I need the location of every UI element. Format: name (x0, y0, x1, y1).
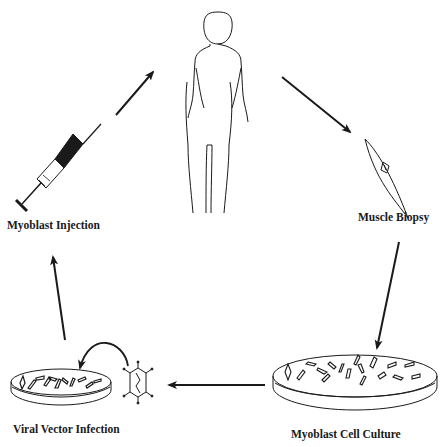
label-muscle-biopsy: Muscle Biopsy (358, 211, 429, 223)
arrow-virus-to-dish (80, 343, 128, 368)
petri-dish-virus-icon (11, 369, 111, 405)
muscle-tissue-icon (365, 139, 408, 218)
petri-dish-icon (273, 355, 437, 410)
human-figure-icon (186, 12, 248, 213)
label-myoblast-cell-culture: Myoblast Cell Culture (291, 428, 401, 440)
gene-therapy-cycle-diagram: Muscle Biopsy Myoblast Injection Myoblas… (0, 0, 443, 447)
syringe-icon (16, 124, 101, 211)
arrow-patient-to-biopsy (282, 77, 350, 132)
label-myoblast-injection: Myoblast Injection (7, 219, 100, 231)
arrow-injection-to-patient (116, 72, 153, 115)
viral-vector-icon (123, 361, 153, 404)
arrow-infection-to-injection (53, 257, 65, 340)
arrow-biopsy-to-culture (377, 242, 399, 348)
label-viral-vector-infection: Viral Vector Infection (13, 423, 120, 435)
